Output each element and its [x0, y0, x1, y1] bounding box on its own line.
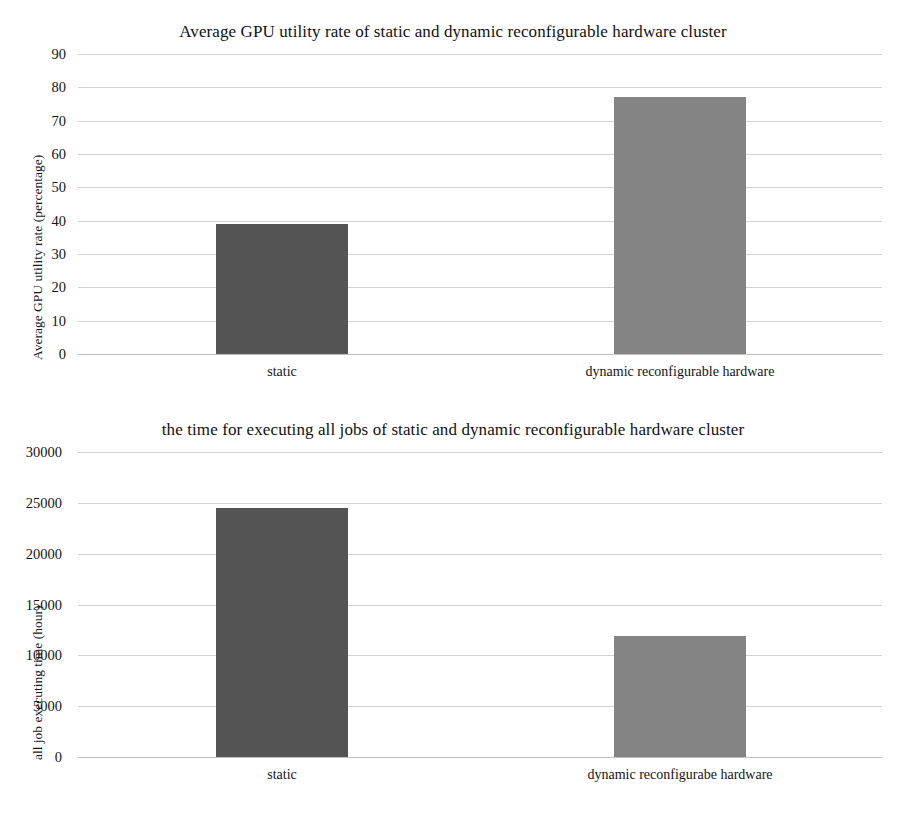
- gridline: [78, 221, 882, 222]
- x-axis-label: dynamic reconfigurable hardware: [586, 364, 775, 380]
- y-axis-tick-label: 10000: [6, 647, 62, 664]
- chart-figure-gpu-utility: Average GPU utility rate of static and d…: [0, 22, 906, 382]
- gridline: [78, 87, 882, 88]
- gridline: [78, 554, 882, 555]
- bar-dynamic-reconfigurable-hardware: [614, 97, 746, 354]
- y-axis-ticks-gpu-utility: 0102030405060708090: [10, 42, 66, 382]
- gridline: [78, 605, 882, 606]
- gridline: [78, 354, 882, 355]
- y-axis-ticks-executing-time: 050001000015000200002500030000: [6, 440, 62, 785]
- y-axis-tick-label: 20: [10, 279, 66, 296]
- y-axis-tick-label: 60: [10, 146, 66, 163]
- chart-title-executing-time: the time for executing all jobs of stati…: [0, 420, 906, 440]
- y-axis-tick-label: 90: [10, 46, 66, 63]
- bar-dynamic-reconfigurabe-hardware: [614, 636, 746, 757]
- gridline: [78, 54, 882, 55]
- x-axis-label: static: [267, 364, 297, 380]
- plot-area-executing-time: all job executing time (hour) 0500010000…: [0, 440, 906, 785]
- y-axis-tick-label: 70: [10, 113, 66, 130]
- bar-static: [216, 508, 348, 757]
- bar-static: [216, 224, 348, 354]
- gridline: [78, 121, 882, 122]
- y-axis-tick-label: 30000: [6, 444, 62, 461]
- y-axis-tick-label: 0: [6, 749, 62, 766]
- chart-title-gpu-utility: Average GPU utility rate of static and d…: [0, 22, 906, 42]
- y-axis-tick-label: 5000: [6, 698, 62, 715]
- gridline: [78, 757, 882, 758]
- y-axis-tick-label: 0: [10, 346, 66, 363]
- gridline: [78, 287, 882, 288]
- y-axis-tick-label: 15000: [6, 597, 62, 614]
- gridline: [78, 706, 882, 707]
- chart-figure-executing-time: the time for executing all jobs of stati…: [0, 420, 906, 785]
- gridline: [78, 452, 882, 453]
- y-axis-tick-label: 80: [10, 79, 66, 96]
- y-axis-tick-label: 30: [10, 246, 66, 263]
- x-axis-label: dynamic reconfigurabe hardware: [587, 767, 772, 783]
- gridline: [78, 655, 882, 656]
- y-axis-tick-label: 40: [10, 213, 66, 230]
- gridline: [78, 154, 882, 155]
- y-axis-tick-label: 20000: [6, 546, 62, 563]
- y-axis-tick-label: 10: [10, 313, 66, 330]
- gridline: [78, 254, 882, 255]
- gridline: [78, 187, 882, 188]
- gridline: [78, 321, 882, 322]
- x-axis-label: static: [267, 767, 297, 783]
- y-axis-tick-label: 25000: [6, 495, 62, 512]
- plot-area-gpu-utility: Average GPU utility rate (percentage) 01…: [0, 42, 906, 382]
- y-axis-tick-label: 50: [10, 179, 66, 196]
- gridline: [78, 503, 882, 504]
